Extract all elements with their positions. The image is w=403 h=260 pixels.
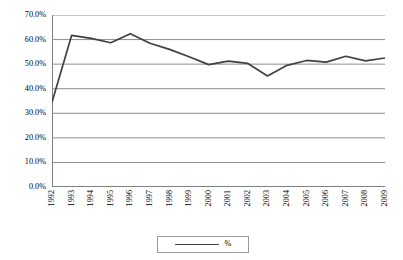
x-tick-label: 1993 (68, 190, 76, 206)
x-tick-label: 2001 (224, 190, 232, 206)
x-tick-label: 2006 (322, 190, 330, 206)
y-tick-label: 60.0% (25, 36, 46, 44)
x-tick-label: 1995 (107, 190, 115, 206)
plot-svg (52, 15, 385, 187)
x-tick-label: 2005 (303, 190, 311, 206)
x-tick-label: 1992 (48, 190, 56, 206)
y-tick-label: 50.0% (25, 60, 46, 68)
x-tick-label: 1994 (87, 190, 95, 206)
x-tick-label: 2000 (205, 190, 213, 206)
y-tick-label: 70.0% (25, 11, 46, 19)
x-tick-label: 2007 (342, 190, 350, 206)
x-tick-label: 1997 (146, 190, 154, 206)
line-chart: 0.0%10.0%20.0%30.0%40.0%50.0%60.0%70.0% … (0, 0, 403, 260)
x-tick-label: 2008 (361, 190, 369, 206)
y-tick-label: 10.0% (25, 158, 46, 166)
y-tick-label: 0.0% (29, 183, 46, 191)
data-line-% (52, 34, 385, 103)
x-axis: 1992199319941995199619971998199920002001… (52, 190, 385, 234)
legend-label-percent: % (225, 240, 232, 248)
x-tick-label: 2009 (381, 190, 389, 206)
x-tick-label: 2002 (244, 190, 252, 206)
x-tick-label: 2004 (283, 190, 291, 206)
x-tick-label: 1996 (126, 190, 134, 206)
y-axis: 0.0%10.0%20.0%30.0%40.0%50.0%60.0%70.0% (0, 0, 49, 202)
x-tick-label: 2003 (263, 190, 271, 206)
y-tick-label: 40.0% (25, 85, 46, 93)
y-tick-label: 30.0% (25, 109, 46, 117)
y-tick-label: 20.0% (25, 134, 46, 142)
plot-area (52, 15, 385, 187)
legend-line-swatch (175, 244, 219, 245)
legend: % (157, 236, 249, 253)
x-tick-label: 1999 (185, 190, 193, 206)
x-tick-label: 1998 (166, 190, 174, 206)
